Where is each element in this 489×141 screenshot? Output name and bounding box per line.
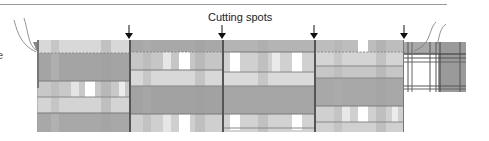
thread-curves — [0, 0, 489, 141]
